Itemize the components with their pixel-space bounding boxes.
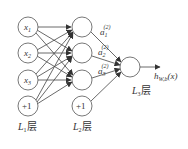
layer-3-label: L3层 [131,85,151,97]
layer-2-label: L2层 [72,121,92,133]
neural-network-diagram: x1 x2 x3 +1 +1 a1(2) a2(2) a3(2) hW,b(x)… [0,0,188,149]
network-svg: x1 x2 x3 +1 +1 a1(2) a2(2) a3(2) hW,b(x)… [0,0,188,149]
output-node [120,57,140,77]
output-label: hW,b(x) [154,71,177,82]
hidden-node-2 [72,43,92,63]
bias-l1-label: +1 [22,101,32,111]
activation-a3: a3(2) [98,63,109,77]
activation-a1: a1(2) [100,24,111,38]
hidden-node-1 [72,17,92,37]
layer-1-label: L1层 [17,121,37,133]
hidden-node-3 [72,70,92,90]
bias-l2-label: +1 [76,101,86,111]
edges-l1-l2 [36,27,73,104]
activation-a2: a2(2) [98,44,109,58]
